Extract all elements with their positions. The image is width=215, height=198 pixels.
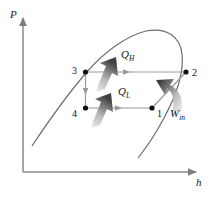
vapor-dome-curve (32, 30, 182, 158)
state-marker-2 (183, 69, 188, 74)
enthalpy-axis-label: h (196, 176, 202, 188)
state-label-3: 3 (72, 65, 77, 76)
heat-absorption-arrow (91, 93, 113, 128)
heat-rejection-arrow (96, 57, 118, 92)
state-marker-4 (83, 105, 88, 110)
ql-subscript: L (125, 91, 130, 100)
ql-symbol: Q (118, 85, 126, 97)
process-arrow-2-3 (123, 69, 130, 75)
state-label-2: 2 (192, 67, 197, 78)
state-marker-3 (83, 69, 88, 74)
state-label-4: 4 (72, 108, 77, 119)
process-arrow-3-4 (83, 88, 89, 95)
energy-flow-arrows (91, 57, 182, 128)
heat-rejection-label: QH (121, 48, 135, 63)
qh-subscript: H (128, 54, 135, 63)
pressure-axis-label: P (9, 8, 17, 20)
state-label-1: 1 (157, 108, 162, 119)
process-arrow-4-1 (115, 105, 122, 111)
win-subscript: in (179, 113, 185, 122)
ph-diagram-canvas: P h (0, 0, 215, 198)
heat-absorption-label: QL (118, 85, 130, 100)
work-input-label: Win (170, 107, 185, 122)
ph-diagram-figure: P h (0, 0, 215, 198)
qh-symbol: Q (121, 48, 129, 60)
state-marker-1 (149, 105, 154, 110)
saturation-dome (32, 30, 182, 158)
